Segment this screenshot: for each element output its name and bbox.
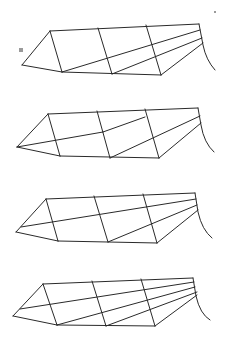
diagram-edge — [141, 279, 155, 326]
diagram-edge — [143, 194, 157, 243]
diagram-edge — [97, 111, 110, 158]
diagram-edge — [20, 282, 194, 309]
diagram-edge — [94, 196, 108, 242]
dot-mark — [214, 11, 216, 13]
diagram-edge — [110, 116, 200, 158]
diagram-edge — [48, 114, 60, 156]
diagram-edge — [146, 25, 161, 75]
diagram-edge — [145, 109, 159, 158]
diagram-edge — [46, 199, 58, 241]
diagram-edge — [106, 292, 197, 326]
diagram-tail-curve — [198, 108, 214, 152]
diagram-edge — [157, 210, 198, 243]
figure-canvas — [0, 0, 229, 344]
truss-diagram-1 — [22, 24, 215, 75]
diagram-edge — [46, 193, 195, 199]
diagram-edge — [50, 24, 199, 31]
diagram-edge — [159, 123, 201, 158]
stray-marks — [19, 11, 216, 52]
diagram-edge — [22, 65, 62, 72]
diagram-edge — [98, 28, 112, 74]
smudge-mark — [19, 48, 23, 52]
diagram-edge — [43, 278, 193, 284]
diagram-edge — [17, 132, 103, 147]
diagram-tail-curve — [199, 24, 215, 70]
diagram-edge — [92, 281, 106, 326]
diagram-edge — [22, 31, 50, 65]
diagram-edge — [50, 31, 62, 72]
diagram-edge — [16, 199, 46, 232]
truss-diagram-2 — [17, 108, 214, 158]
diagram-tail-curve — [195, 193, 212, 238]
diagram-edge — [62, 30, 200, 72]
truss-diagram-4 — [13, 278, 210, 326]
diagram-edge — [161, 43, 203, 75]
truss-diagram-3 — [16, 193, 212, 243]
diagram-tail-curve — [193, 278, 210, 320]
diagram-edge — [17, 147, 60, 156]
diagram-edge — [103, 117, 145, 132]
diagram-edge — [13, 284, 43, 316]
diagram-edge — [13, 316, 57, 325]
diagram-edge — [16, 232, 58, 241]
diagram-edge — [48, 108, 198, 114]
